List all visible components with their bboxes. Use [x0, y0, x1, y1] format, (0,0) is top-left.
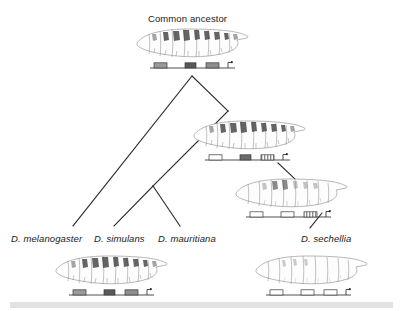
species-label-mauritiana: D. mauritiana	[158, 234, 216, 244]
enhancer-box-3	[304, 212, 317, 217]
enhancer-box-2	[104, 290, 115, 295]
promoter-cap-icon	[349, 288, 351, 290]
enhancer-box-2	[281, 212, 294, 217]
promoter-arrow-icon	[283, 155, 287, 161]
enhancer-box-1	[73, 290, 86, 295]
enhancer-box-3	[324, 290, 337, 295]
enhancer-box-2	[240, 155, 251, 160]
larva-common-ancestor	[137, 29, 248, 57]
promoter-cap-icon	[329, 210, 331, 212]
promoter-arrow-icon	[326, 212, 330, 218]
larva-sechellia	[256, 256, 367, 284]
larva-node-right	[194, 121, 305, 149]
promoter-arrow-icon	[346, 290, 350, 296]
branch-node2-to-node3	[278, 163, 296, 180]
branch-inner-to-mauritiana	[153, 186, 180, 226]
larva-sechellia-gene-diagram	[266, 288, 351, 295]
branch-root-to-noderight	[192, 76, 228, 111]
branch-noderight-to-inner	[153, 111, 228, 186]
phylogeny-figure: Common ancestor D. melanogaster D. simul…	[0, 0, 403, 311]
larva-melanogaster-gene-diagram	[69, 288, 154, 295]
promoter-cap-icon	[231, 61, 233, 63]
enhancer-box-2	[301, 290, 314, 295]
promoter-cap-icon	[150, 288, 152, 290]
branch-root-to-melanogaster	[73, 76, 192, 226]
enhancer-box-1	[270, 290, 283, 295]
larva-common-ancestor-gene-diagram	[150, 61, 235, 68]
enhancer-box-3	[261, 155, 274, 160]
enhancer-box-1	[154, 63, 167, 68]
branch-inner-to-simulans	[114, 186, 153, 226]
footer-band	[10, 302, 393, 308]
larva-node-sechellia-ancestor-gene-diagram	[246, 210, 331, 217]
larva-melanogaster	[56, 256, 167, 284]
species-label-simulans: D. simulans	[94, 234, 145, 244]
figure-artwork	[0, 0, 403, 311]
enhancer-box-1	[209, 155, 222, 160]
enhancer-box-3	[206, 63, 219, 68]
larva-node-sechellia-ancestor	[236, 179, 347, 207]
page-title: Common ancestor	[148, 14, 227, 24]
enhancer-box-2	[185, 63, 196, 68]
larva-node-right-gene-diagram	[205, 153, 290, 160]
promoter-arrow-icon	[228, 63, 232, 69]
enhancer-box-3	[125, 290, 138, 295]
species-label-sechellia: D. sechellia	[301, 234, 351, 244]
promoter-arrow-icon	[147, 290, 151, 296]
enhancer-box-1	[250, 212, 263, 217]
promoter-cap-icon	[286, 153, 288, 155]
species-label-melanogaster: D. melanogaster	[11, 234, 82, 244]
